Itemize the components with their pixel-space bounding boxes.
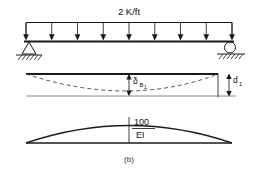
- deflected-shape-curve: [26, 74, 218, 91]
- end-deflection-label: d: [233, 75, 238, 85]
- hatched-ground: [219, 54, 243, 59]
- deflection-panel: δ B 1 d 1: [26, 73, 243, 97]
- load-arrow: [152, 23, 158, 41]
- load-arrow: [203, 23, 209, 41]
- load-arrow-group: [23, 23, 235, 41]
- fraction-denominator: EI: [136, 130, 145, 140]
- figure-caption: (b): [124, 155, 134, 164]
- hatched-ground: [18, 55, 42, 60]
- moment-panel: 100 EI: [26, 117, 232, 143]
- end-deflection-sub: 1: [239, 81, 243, 87]
- load-arrow: [49, 23, 55, 41]
- moment-value-fraction: 100 EI: [132, 117, 155, 140]
- center-deflection-dimension: [126, 74, 131, 96]
- center-deflection-label: δ: [133, 76, 138, 86]
- center-deflection-sub: B: [140, 82, 144, 88]
- load-arrow: [100, 23, 106, 41]
- load-arrow: [23, 23, 29, 41]
- pin-support: [16, 42, 42, 60]
- load-arrow: [229, 23, 235, 41]
- center-deflection-subsub: 1: [144, 84, 147, 90]
- structural-analysis-figure: δ B 1 d 1 100: [0, 0, 260, 170]
- roller-support: [217, 42, 245, 59]
- load-panel: [16, 23, 245, 61]
- fraction-numerator: 100: [134, 117, 149, 127]
- load-arrow: [75, 23, 81, 41]
- end-deflection-dimension: [226, 74, 231, 97]
- load-arrow: [178, 23, 184, 41]
- figure-canvas: δ B 1 d 1 100: [0, 0, 260, 170]
- load-arrow: [126, 23, 132, 41]
- distributed-load-label: 2 K/ft: [118, 6, 141, 17]
